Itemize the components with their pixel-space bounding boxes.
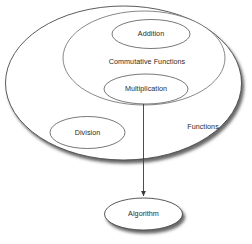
- label-algorithm: Algorithm: [128, 209, 159, 218]
- venn-diagram-canvas: Addition Commutative Functions Multiplic…: [0, 0, 252, 244]
- label-commutative-functions: Commutative Functions: [109, 57, 186, 66]
- label-division: Division: [75, 128, 101, 137]
- diagram-svg: Addition Commutative Functions Multiplic…: [0, 0, 252, 244]
- label-multiplication: Multiplication: [125, 84, 167, 93]
- label-functions: Functions: [187, 122, 219, 131]
- label-addition: Addition: [138, 29, 164, 38]
